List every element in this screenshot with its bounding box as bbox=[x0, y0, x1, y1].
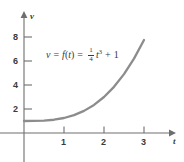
equation-v: v bbox=[46, 50, 50, 60]
y-axis-label: v bbox=[30, 12, 34, 21]
equation-exponent: 3 bbox=[99, 49, 102, 56]
equation-plus: + bbox=[105, 50, 111, 60]
plot-area bbox=[0, 0, 184, 162]
y-tick-label-8: 8 bbox=[13, 33, 18, 42]
y-tick-label-6: 6 bbox=[13, 57, 18, 66]
x-axis-label: t bbox=[173, 137, 176, 146]
fraction-numerator: 1 bbox=[88, 47, 94, 54]
equation-paren-close: ) bbox=[71, 50, 74, 60]
y-tick-label-4: 4 bbox=[13, 81, 18, 90]
equation-fraction-one-quarter: 1 4 bbox=[88, 47, 94, 63]
y-tick-label-2: 2 bbox=[13, 105, 18, 114]
equation-constant: 1 bbox=[114, 50, 119, 60]
function-graph-figure: 8 6 4 2 1 2 3 v t v = f ( t ) = 1 4 t 3 … bbox=[0, 0, 184, 162]
x-tick-label-3: 3 bbox=[141, 138, 146, 147]
fraction-denominator: 4 bbox=[88, 56, 94, 63]
y-axis-arrow bbox=[21, 11, 28, 18]
equation-annotation: v = f ( t ) = 1 4 t 3 + 1 bbox=[46, 47, 119, 63]
equation-equals-1: = bbox=[53, 50, 59, 60]
x-tick-label-2: 2 bbox=[101, 138, 106, 147]
x-tick-label-1: 1 bbox=[61, 138, 66, 147]
equation-equals-2: = bbox=[77, 50, 83, 60]
